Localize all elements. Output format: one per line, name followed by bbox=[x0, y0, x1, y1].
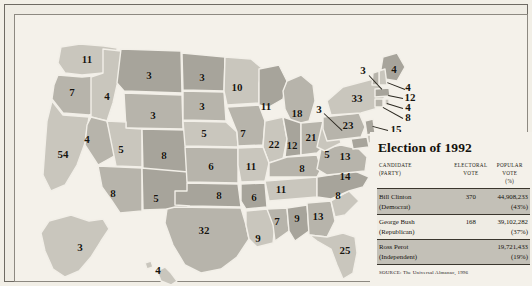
candidate-party: (Democrat) bbox=[379, 203, 410, 210]
ev-label-NV: 4 bbox=[84, 134, 90, 145]
ev-label-CO: 8 bbox=[161, 150, 167, 161]
ev-label-SC: 8 bbox=[335, 190, 341, 201]
results-row: Ross Perot(Independent)19,721,433(19%) bbox=[377, 239, 530, 264]
ev-label-WV: 5 bbox=[324, 149, 330, 160]
ev-label-ME: 4 bbox=[391, 64, 397, 75]
figure-outer-frame: 1175444335885335683210711691122718121192… bbox=[4, 4, 528, 282]
ev-label-KY: 8 bbox=[299, 163, 305, 174]
ev-label-IL: 22 bbox=[269, 139, 280, 150]
popular-vote-count: 39,102,282 bbox=[497, 218, 528, 225]
ev-label-DC: 3 bbox=[316, 104, 322, 115]
ev-label-IA: 7 bbox=[240, 128, 246, 139]
candidate-cell: Ross Perot(Independent) bbox=[377, 239, 452, 264]
ev-label-ID: 4 bbox=[104, 91, 110, 102]
ev-label-LA: 9 bbox=[255, 233, 261, 244]
ev-label-WI: 11 bbox=[261, 101, 271, 112]
ev-label-MS: 7 bbox=[274, 216, 280, 227]
candidate-cell: Bill Clinton(Democrat) bbox=[377, 189, 452, 214]
state-shape-FL bbox=[309, 233, 357, 279]
election-map-figure: 1175444335885335683210711691122718121192… bbox=[0, 0, 532, 286]
ev-label-VA: 13 bbox=[340, 151, 351, 162]
ev-label-OK: 8 bbox=[216, 190, 222, 201]
candidate-party: (Independent) bbox=[379, 253, 417, 260]
popular-vote-cell: 39,102,282(37%) bbox=[489, 214, 530, 239]
state-shape-AZ bbox=[98, 166, 142, 213]
ev-label-KS: 6 bbox=[208, 161, 214, 172]
ev-label-TX: 32 bbox=[199, 225, 210, 236]
popular-vote-percent: (43%) bbox=[491, 202, 528, 212]
ev-label-NE: 5 bbox=[201, 128, 207, 139]
results-table: CANDIDATE (PARTY) ELECTORAL VOTE POPULAR… bbox=[377, 162, 530, 265]
figure-inner-frame: 1175444335885335683210711691122718121192… bbox=[14, 14, 528, 282]
state-shape-HI bbox=[145, 261, 153, 269]
state-shape-TX bbox=[165, 207, 249, 273]
popular-vote-count: 19,721,433 bbox=[497, 243, 528, 250]
results-header-row: CANDIDATE (PARTY) ELECTORAL VOTE POPULAR… bbox=[377, 162, 530, 189]
ev-label-VT: 3 bbox=[360, 65, 366, 76]
ev-label-AR: 6 bbox=[251, 192, 257, 203]
ev-label-CA: 54 bbox=[58, 149, 69, 160]
source-note: SOURCE: The Universal Almanac, 1996 bbox=[377, 270, 530, 275]
election-results-panel: Election of 1992 CANDIDATE (PARTY) ELECT… bbox=[370, 132, 532, 286]
popular-vote-cell: 44,908,233(43%) bbox=[489, 189, 530, 214]
ev-label-OR: 7 bbox=[69, 87, 75, 98]
ev-label-MI: 18 bbox=[292, 108, 303, 119]
column-header-candidate: CANDIDATE (PARTY) bbox=[377, 162, 452, 189]
ev-label-WY: 3 bbox=[150, 110, 156, 121]
column-header-electoral-line2: VOTE bbox=[463, 170, 478, 176]
column-header-candidate-line1: CANDIDATE bbox=[379, 162, 412, 168]
ev-label-FL: 25 bbox=[340, 245, 351, 256]
state-shape-TN bbox=[265, 177, 317, 201]
electoral-vote-cell: 370 bbox=[452, 189, 489, 214]
ev-label-CT: 8 bbox=[405, 112, 411, 123]
state-shape-CT bbox=[375, 99, 383, 107]
popular-vote-percent: (19%) bbox=[491, 252, 528, 262]
state-shape-AK bbox=[41, 215, 109, 277]
ev-label-UT: 5 bbox=[118, 144, 124, 155]
column-header-electoral: ELECTORAL VOTE bbox=[452, 162, 489, 189]
ev-label-SD: 3 bbox=[199, 101, 205, 112]
ev-label-MO: 11 bbox=[246, 161, 256, 172]
state-shape-MN bbox=[224, 57, 263, 105]
candidate-cell: George Bush(Republican) bbox=[377, 214, 452, 239]
column-header-candidate-line2: (PARTY) bbox=[379, 170, 401, 176]
electoral-vote-cell bbox=[452, 239, 489, 264]
electoral-vote-cell: 168 bbox=[452, 214, 489, 239]
candidate-name: Bill Clinton bbox=[379, 193, 411, 200]
column-header-popular-line1: POPULAR VOTE bbox=[497, 162, 523, 176]
popular-vote-cell: 19,721,433(19%) bbox=[489, 239, 530, 264]
ev-label-AZ: 8 bbox=[110, 188, 116, 199]
results-table-body: Bill Clinton(Democrat)37044,908,233(43%)… bbox=[377, 189, 530, 265]
ev-label-TN: 11 bbox=[276, 184, 286, 195]
results-table-head: CANDIDATE (PARTY) ELECTORAL VOTE POPULAR… bbox=[377, 162, 530, 189]
ev-label-AK: 3 bbox=[77, 242, 83, 253]
ev-label-ND: 3 bbox=[199, 72, 205, 83]
ev-label-MT: 3 bbox=[146, 70, 152, 81]
panel-title: Election of 1992 bbox=[378, 140, 530, 156]
column-header-popular-line2: (%) bbox=[505, 178, 514, 184]
results-row: George Bush(Republican)16839,102,282(37%… bbox=[377, 214, 530, 239]
column-header-popular: POPULAR VOTE (%) bbox=[489, 162, 530, 189]
ev-label-WA: 11 bbox=[82, 54, 92, 65]
ev-label-HI: 4 bbox=[155, 265, 161, 276]
ev-label-MN: 10 bbox=[232, 82, 243, 93]
candidate-name: George Bush bbox=[379, 218, 415, 225]
ev-label-GA: 13 bbox=[313, 211, 324, 222]
ev-label-AL: 9 bbox=[294, 213, 300, 224]
ev-label-IN: 12 bbox=[287, 140, 298, 151]
ev-label-OH: 21 bbox=[306, 132, 317, 143]
candidate-name: Ross Perot bbox=[379, 243, 408, 250]
popular-vote-count: 44,908,233 bbox=[497, 193, 528, 200]
state-shape-MD bbox=[351, 137, 369, 149]
ev-label-NM: 5 bbox=[153, 193, 159, 204]
column-header-electoral-line1: ELECTORAL bbox=[454, 162, 487, 168]
ev-label-NC: 14 bbox=[340, 171, 351, 182]
candidate-party: (Republican) bbox=[379, 228, 414, 235]
state-shape-NE bbox=[183, 121, 238, 147]
results-row: Bill Clinton(Democrat)37044,908,233(43%) bbox=[377, 189, 530, 214]
ev-label-PA: 23 bbox=[343, 120, 354, 131]
ev-label-NY: 33 bbox=[352, 93, 363, 104]
popular-vote-percent: (37%) bbox=[491, 227, 528, 237]
